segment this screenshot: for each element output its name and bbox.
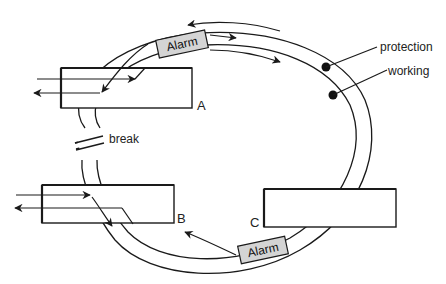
node-c-label: C [250, 215, 259, 230]
node-b [15, 185, 174, 226]
protection-marker [322, 47, 378, 72]
traffic-arrow-bottom [185, 232, 236, 255]
node-a-label: A [197, 98, 206, 113]
break-label: break [109, 132, 140, 146]
node-c [264, 189, 396, 227]
ring-diagram: break A B C Alarm [0, 0, 446, 284]
alarm-top: Alarm [156, 30, 209, 58]
protection-label: protection [380, 40, 433, 54]
working-marker [329, 70, 388, 100]
working-label: working [387, 64, 429, 78]
node-b-label: B [177, 211, 186, 226]
